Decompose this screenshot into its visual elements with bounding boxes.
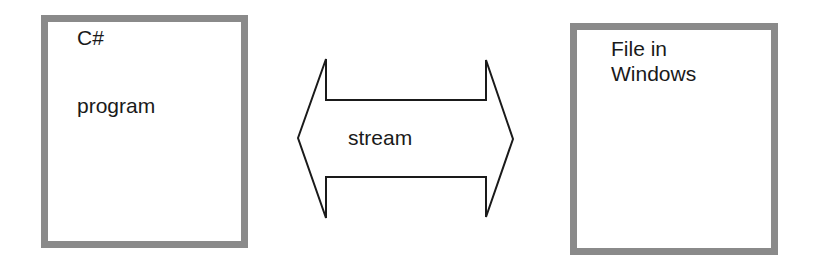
stream-label: stream xyxy=(348,126,412,150)
windows-label: Windows xyxy=(611,62,696,86)
windows-file-box xyxy=(570,23,778,255)
file-in-label: File in xyxy=(611,37,667,61)
